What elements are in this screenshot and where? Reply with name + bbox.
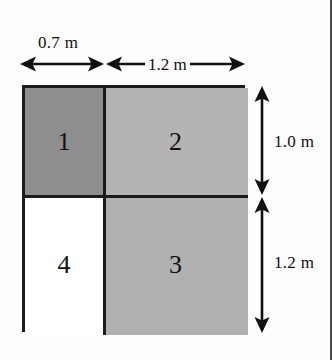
region-1-label: 1	[58, 127, 71, 157]
dimension-arrow-right-top	[252, 86, 272, 195]
dimension-arrow-top-left	[20, 55, 104, 73]
composite-rectangle: 1 2 4 3	[22, 85, 245, 332]
dimension-label-right-bottom: 1.2 m	[274, 253, 314, 273]
region-3: 3	[103, 195, 248, 335]
figure-canvas: 0.7 m 1.2 m 1 2 4 3 1.0 m	[0, 0, 333, 360]
page-border-rule	[330, 0, 332, 360]
region-4-label: 4	[58, 250, 71, 280]
region-3-label: 3	[169, 250, 182, 280]
region-2: 2	[103, 88, 248, 195]
dimension-label-top-left: 0.7 m	[38, 33, 78, 53]
dimension-label-top-right: 1.2 m	[145, 55, 190, 75]
vertical-divider	[103, 88, 106, 335]
horizontal-divider	[25, 195, 248, 198]
region-1: 1	[25, 88, 103, 195]
region-4: 4	[25, 195, 103, 335]
dimension-arrow-right-bottom	[252, 197, 272, 333]
dimension-label-right-top: 1.0 m	[274, 132, 314, 152]
region-2-label: 2	[169, 127, 182, 157]
